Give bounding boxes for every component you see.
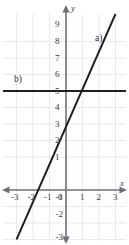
x-axis-name: x: [120, 179, 124, 188]
x-tick-label-1: 1: [80, 193, 85, 202]
y-axis-arrow-up-icon: [62, 5, 69, 13]
y-tick-label-3: 3: [55, 120, 60, 129]
y-tick-label-neg3: -3: [56, 233, 64, 242]
curve-label-a: a): [95, 33, 102, 43]
x-axis: [2, 186, 127, 193]
x-tick-label-neg1: -1: [44, 193, 52, 202]
y-tick-label-1: 1: [55, 153, 60, 162]
horizontal-gridlines: [3, 42, 126, 240]
y-tick-label-6: 6: [55, 70, 60, 79]
y-tick-label-neg2: -2: [56, 210, 64, 219]
y-tick-label-5: 5: [55, 87, 60, 96]
curve-label-b: b): [14, 74, 22, 84]
x-tick-label-2: 2: [97, 193, 102, 202]
y-tick-label-4: 4: [55, 103, 60, 112]
x-axis-arrow-left-icon: [2, 186, 10, 193]
coordinate-plane-chart: 9 8 7 6 5 4 3 2 1 -1 -2 -3 0 -3 -2 -1 1 …: [0, 0, 129, 245]
y-tick-label-7: 7: [55, 54, 60, 63]
origin-label: 0: [58, 193, 63, 202]
x-tick-label-neg2: -2: [28, 193, 36, 202]
chart-canvas: [0, 0, 129, 245]
y-tick-label-9: 9: [55, 20, 60, 29]
y-axis-name: y: [71, 4, 75, 13]
x-tick-label-neg3: -3: [11, 193, 19, 202]
y-axis-arrow-down-icon: [62, 237, 69, 245]
y-tick-label-8: 8: [55, 37, 60, 46]
x-tick-label-3: 3: [113, 193, 118, 202]
y-tick-label-2: 2: [55, 136, 60, 145]
